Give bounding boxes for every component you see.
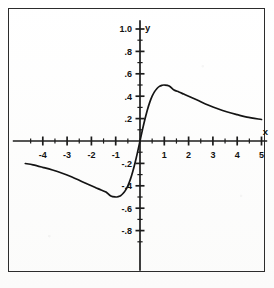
y-tick-label: -.4: [121, 181, 132, 191]
tick-labels-group: -4-3-2-1123451.0.8.6.4.2-.2-.4-.6-.8xy: [39, 22, 269, 236]
y-axis-label: y: [145, 22, 151, 33]
x-tick-label: 1: [162, 150, 167, 160]
x-tick-label: 2: [186, 150, 191, 160]
x-tick-label: 4: [235, 150, 240, 160]
y-tick-label: -.2: [121, 159, 132, 169]
axes-group: [14, 21, 267, 270]
ticks-group: [31, 29, 262, 242]
y-tick-label: .2: [124, 114, 132, 124]
figure-container: -4-3-2-1123451.0.8.6.4.2-.2-.4-.6-.8xy: [0, 0, 274, 288]
y-tick-label: .4: [124, 92, 132, 102]
y-tick-label: 1.0: [119, 24, 132, 34]
x-tick-label: -2: [87, 150, 95, 160]
x-tick-label: -3: [63, 150, 71, 160]
x-tick-label: 3: [210, 150, 215, 160]
function-plot: -4-3-2-1123451.0.8.6.4.2-.2-.4-.6-.8xy: [0, 0, 274, 288]
y-tick-label: -.6: [121, 204, 132, 214]
y-tick-label: .6: [124, 69, 132, 79]
x-tick-label: 5: [259, 150, 264, 160]
y-tick-label: .8: [124, 47, 132, 57]
x-tick-label: -1: [112, 150, 120, 160]
x-axis-label: x: [263, 126, 269, 137]
y-tick-label: -.8: [121, 226, 132, 236]
x-tick-label: -4: [39, 150, 47, 160]
